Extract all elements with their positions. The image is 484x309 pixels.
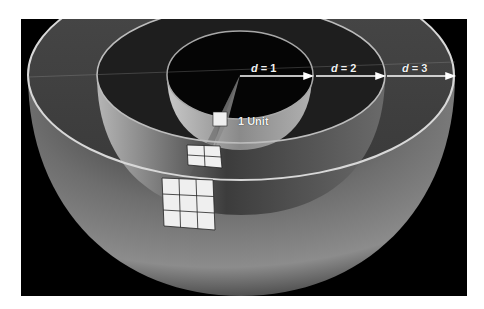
unit-label: 1 Unit	[238, 115, 269, 127]
distance-label-3: d = 3	[402, 62, 427, 74]
tile-grid-3x3	[162, 178, 215, 230]
distance-label-1: d = 1	[251, 62, 276, 74]
tile-grid-2x2	[187, 145, 222, 168]
distance-label-2: d = 2	[331, 62, 356, 74]
shells-diagram: d = 1 d = 2 d = 3 1 Unit	[21, 19, 467, 296]
tile-grid-1x1	[213, 112, 227, 126]
shells-graphic	[21, 19, 467, 296]
